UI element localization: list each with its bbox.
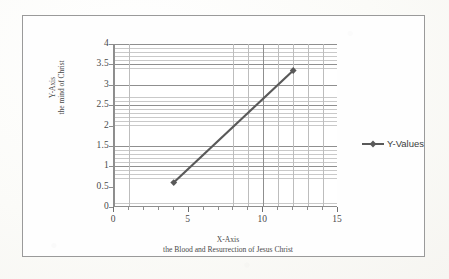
y-axis-title-line1: Y-Axis xyxy=(48,27,57,147)
x-axis-tick-labels: 051015 xyxy=(83,214,373,228)
y-axis-tick-label: 0 xyxy=(75,202,109,212)
y-axis-tick-label: 1.5 xyxy=(75,141,109,151)
chart-frame: 00.511.522.533.54 Y-Axis the mind of Chr… xyxy=(22,15,425,257)
x-axis-tick-label: 10 xyxy=(242,214,282,225)
x-axis-tick-mark-minor xyxy=(292,207,293,210)
data-series-y-values xyxy=(114,44,337,207)
x-axis-tick-mark-major xyxy=(188,207,189,212)
y-axis-tick-label: 0.5 xyxy=(75,182,109,192)
y-axis-tick-labels: 00.511.522.533.54 xyxy=(73,44,109,207)
y-axis-tick-label: 2.5 xyxy=(75,100,109,110)
x-axis-tick-mark-minor xyxy=(277,207,278,210)
x-axis-tick-label: 5 xyxy=(168,214,208,225)
x-axis-tick-mark-minor xyxy=(322,207,323,210)
series-line xyxy=(174,70,293,182)
x-axis-tick-mark-minor xyxy=(232,207,233,210)
x-axis-tick-mark-minor xyxy=(173,207,174,210)
x-axis-tick-mark-minor xyxy=(247,207,248,210)
x-axis-tick-mark-major xyxy=(262,207,263,212)
x-axis-tick-mark-major xyxy=(113,207,114,212)
y-axis-tick-label: 3.5 xyxy=(75,59,109,69)
chart-legend: Y-Values xyxy=(361,139,424,149)
x-axis-title-line1: X-Axis xyxy=(63,235,393,245)
y-axis-title: Y-Axis the mind of Christ xyxy=(48,27,67,147)
x-axis-tick-marks xyxy=(113,207,337,212)
x-axis-tick-mark-major xyxy=(337,207,338,212)
x-axis-tick-mark-minor xyxy=(203,207,204,210)
x-axis-tick-label: 0 xyxy=(93,214,133,225)
y-axis-tick-label: 4 xyxy=(75,39,109,49)
y-axis-title-line2: the mind of Christ xyxy=(57,27,66,147)
y-axis-tick-label: 2 xyxy=(75,121,109,131)
legend-line-marker-icon xyxy=(361,139,385,149)
y-axis-tick-label: 3 xyxy=(75,80,109,90)
x-axis-tick-mark-minor xyxy=(143,207,144,210)
x-axis-title-line2: the Blood and Resurrection of Jesus Chri… xyxy=(63,245,393,255)
plot-area xyxy=(113,44,337,207)
y-axis-tick-label: 1 xyxy=(75,161,109,171)
x-axis-tick-mark-minor xyxy=(158,207,159,210)
x-axis-title: X-Axis the Blood and Resurrection of Jes… xyxy=(63,235,393,255)
x-axis-tick-mark-minor xyxy=(218,207,219,210)
x-axis-tick-label: 15 xyxy=(317,214,357,225)
legend-label-y-values: Y-Values xyxy=(387,139,424,149)
x-axis-tick-mark-minor xyxy=(128,207,129,210)
x-axis-tick-mark-minor xyxy=(307,207,308,210)
scanned-page: 00.511.522.533.54 Y-Axis the mind of Chr… xyxy=(0,0,449,279)
